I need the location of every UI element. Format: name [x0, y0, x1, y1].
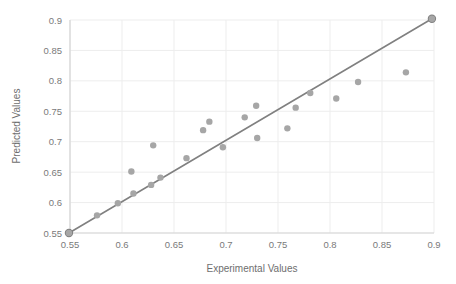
data-point: [242, 114, 248, 120]
data-point: [128, 168, 134, 174]
data-point: [355, 79, 361, 85]
y-tick-label: 0.7: [49, 136, 62, 147]
x-tick-label: 0.9: [427, 239, 440, 250]
y-axis-title: Predicted Values: [11, 89, 22, 164]
data-point: [157, 174, 163, 180]
data-point: [183, 155, 189, 161]
data-point: [429, 16, 435, 22]
scatter-chart: 0.550.60.650.70.750.80.850.9 0.550.60.65…: [0, 0, 456, 284]
x-tick-label: 0.7: [219, 239, 232, 250]
data-point: [94, 212, 100, 218]
x-tick-label: 0.8: [323, 239, 336, 250]
y-tick-labels-group: 0.550.60.650.70.750.80.850.9: [44, 15, 63, 239]
y-tick-label: 0.55: [44, 228, 63, 239]
data-point: [307, 90, 313, 96]
data-point: [66, 230, 72, 236]
data-point: [292, 104, 298, 110]
data-point: [150, 142, 156, 148]
y-tick-label: 0.75: [44, 106, 63, 117]
x-tick-label: 0.55: [61, 239, 80, 250]
y-tick-label: 0.6: [49, 197, 62, 208]
y-tick-label: 0.9: [49, 15, 62, 26]
y-tick-label: 0.85: [44, 45, 63, 56]
x-tick-label: 0.75: [269, 239, 288, 250]
x-tick-labels-group: 0.550.60.650.70.750.80.850.9: [61, 239, 441, 250]
y-tick-label: 0.65: [44, 167, 63, 178]
x-axis-title: Experimental Values: [207, 263, 298, 274]
data-point: [254, 135, 260, 141]
data-point: [200, 127, 206, 133]
x-tick-label: 0.65: [165, 239, 184, 250]
data-point: [206, 118, 212, 124]
data-point: [253, 103, 259, 109]
data-point: [115, 200, 121, 206]
data-point: [403, 69, 409, 75]
data-point: [284, 125, 290, 131]
data-point: [130, 190, 136, 196]
x-tick-label: 0.85: [373, 239, 392, 250]
data-point: [220, 144, 226, 150]
x-tick-label: 0.6: [115, 239, 128, 250]
data-point: [148, 182, 154, 188]
chart-canvas: 0.550.60.650.70.750.80.850.9 0.550.60.65…: [0, 0, 456, 284]
y-tick-label: 0.8: [49, 75, 62, 86]
data-point: [333, 95, 339, 101]
